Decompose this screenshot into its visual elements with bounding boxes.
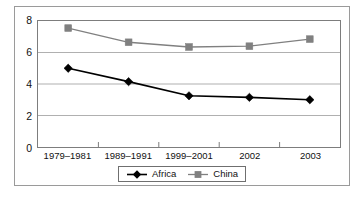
x-axis-tick-labels: 1979–19811989–19911999–200120022003 xyxy=(37,150,341,166)
data-point-marker xyxy=(125,39,132,46)
diamond-marker-icon xyxy=(126,169,148,180)
data-point-marker xyxy=(124,78,132,86)
chart-figure: 02468 1979–19811989–19911999–20012002200… xyxy=(0,0,364,202)
x-axis-tick-label: 2002 xyxy=(239,150,260,161)
x-axis-tick-label: 1999–2001 xyxy=(165,150,213,161)
y-axis-tick-label: 4 xyxy=(17,79,32,90)
legend-label: Africa xyxy=(152,169,176,179)
data-point-marker xyxy=(245,93,253,101)
data-point-marker xyxy=(306,36,313,43)
line-chart-canvas xyxy=(38,21,340,147)
chart-legend: AfricaChina xyxy=(118,166,246,182)
data-point-marker xyxy=(185,92,193,100)
x-axis-tick-label: 1979–1981 xyxy=(44,150,92,161)
legend-entry-china[interactable]: China xyxy=(187,169,238,180)
y-axis-tick-label: 8 xyxy=(17,15,32,26)
data-point-marker xyxy=(64,64,72,72)
data-point-marker xyxy=(186,44,193,51)
legend-label: China xyxy=(213,169,238,179)
y-axis-tick-label: 2 xyxy=(17,111,32,122)
y-axis-tick-label: 0 xyxy=(17,143,32,154)
data-point-marker xyxy=(65,25,72,32)
series-china xyxy=(65,25,313,51)
data-point-marker xyxy=(306,96,314,104)
plot-area xyxy=(37,20,341,148)
y-axis-tick-label: 6 xyxy=(17,47,32,58)
data-point-marker xyxy=(246,43,253,50)
y-axis-tick-labels: 02468 xyxy=(17,20,32,148)
x-axis-tick-label: 1989–1991 xyxy=(104,150,152,161)
legend-entry-africa[interactable]: Africa xyxy=(126,169,176,180)
square-marker-icon xyxy=(187,169,209,180)
x-axis-tick-label: 2003 xyxy=(300,150,321,161)
